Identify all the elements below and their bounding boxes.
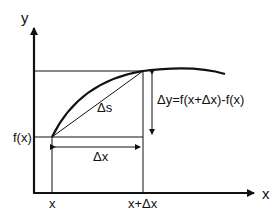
diagram-canvas: y x f(x) x x+Δx Δs Δx Δy=f(x+Δx)-f(x): [0, 0, 279, 217]
delta-y-label: Δy=f(x+Δx)-f(x): [157, 92, 244, 107]
x-axis-label: x: [262, 185, 270, 202]
delta-x-label: Δx: [93, 149, 109, 164]
x-tick-label: x: [49, 196, 56, 211]
fx-label: f(x): [13, 130, 32, 145]
arc-length-diagram: y x f(x) x x+Δx Δs Δx Δy=f(x+Δx)-f(x): [0, 0, 279, 217]
y-axis-label: y: [21, 9, 29, 26]
x-dx-tick-label: x+Δx: [128, 196, 158, 211]
delta-s-label: Δs: [97, 100, 113, 115]
